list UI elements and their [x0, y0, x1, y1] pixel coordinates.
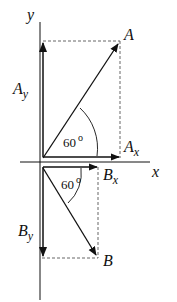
y-axis-label: y — [25, 6, 35, 24]
bx-label: Bx — [103, 166, 119, 187]
by-label: By — [18, 222, 34, 243]
dashed-guides — [42, 41, 120, 258]
angle-a-label: 60o — [63, 132, 83, 150]
ax-label: Ax — [123, 138, 140, 159]
vector-b-label: B — [103, 252, 113, 269]
x-axis-label: x — [151, 163, 159, 180]
vector-a-label: A — [123, 26, 134, 43]
vector-diagram: y x A Ay Ax 60o B Bx By 60o — [0, 0, 177, 302]
ay-label: Ay — [12, 80, 29, 101]
